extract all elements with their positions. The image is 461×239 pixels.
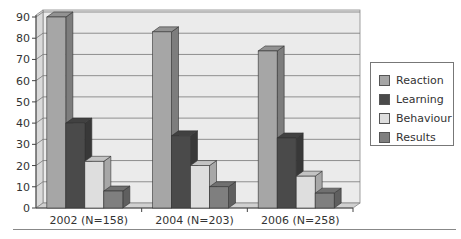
y-tick-label: 10 bbox=[16, 181, 30, 194]
y-tick-label: 60 bbox=[16, 75, 30, 88]
legend-item-learning: Learning bbox=[379, 90, 453, 109]
x-category-label: 2006 (N=258) bbox=[261, 214, 340, 227]
y-tick-label: 40 bbox=[16, 117, 30, 130]
y-tick-label: 0 bbox=[23, 202, 30, 215]
y-tick-label: 80 bbox=[16, 32, 30, 45]
legend-swatch bbox=[379, 132, 390, 143]
bar-results bbox=[210, 182, 236, 208]
bar-results bbox=[104, 186, 130, 208]
legend-swatch bbox=[379, 75, 390, 86]
y-tick-label: 90 bbox=[16, 11, 30, 24]
x-axis-labels: 2002 (N=158)2004 (N=203)2006 (N=258) bbox=[50, 208, 353, 227]
x-category-label: 2004 (N=203) bbox=[155, 214, 234, 227]
legend-label: Results bbox=[396, 131, 436, 144]
bar-results bbox=[315, 188, 341, 208]
y-tick-label: 50 bbox=[16, 96, 30, 109]
legend-item-behaviour: Behaviour bbox=[379, 109, 453, 128]
legend-swatch bbox=[379, 94, 390, 105]
bottom-divider bbox=[13, 229, 456, 230]
legend-label: Behaviour bbox=[396, 112, 452, 125]
y-tick-label: 30 bbox=[16, 138, 30, 151]
y-tick-label: 20 bbox=[16, 160, 30, 173]
legend: Reaction Learning Behaviour Results bbox=[370, 62, 454, 146]
legend-item-reaction: Reaction bbox=[379, 71, 453, 90]
legend-item-results: Results bbox=[379, 128, 453, 147]
legend-swatch bbox=[379, 113, 390, 124]
y-tick-label: 70 bbox=[16, 53, 30, 66]
legend-label: Reaction bbox=[396, 74, 444, 87]
x-category-label: 2002 (N=158) bbox=[50, 214, 129, 227]
legend-label: Learning bbox=[396, 93, 444, 106]
